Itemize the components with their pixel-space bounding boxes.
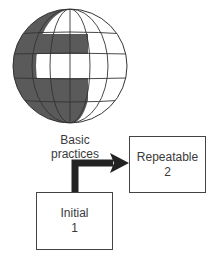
node-initial: Initial 1 (36, 192, 113, 250)
globe-icon (13, 9, 127, 123)
node-initial-level: 1 (71, 221, 78, 236)
node-repeatable: Repeatable 2 (129, 136, 206, 193)
globe-label-line1: Basic (40, 133, 110, 147)
globe-label-line2: practices (40, 147, 110, 161)
globe-label: Basic practices (40, 133, 110, 161)
node-repeatable-title: Repeatable (137, 150, 198, 165)
node-repeatable-level: 2 (164, 165, 171, 180)
node-initial-title: Initial (60, 206, 88, 221)
